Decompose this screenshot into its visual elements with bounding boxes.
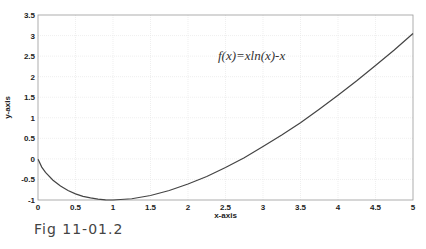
x-tick-label: 2 [186,203,191,212]
figure-caption: Fig 11-01.2 [34,221,123,237]
y-tick-label: 0.5 [24,134,36,143]
x-tick-label: 0.5 [70,203,82,212]
y-tick-label: 0 [31,155,36,164]
y-ticks: -1-0.500.511.522.533.5 [21,11,35,205]
y-tick-label: 3.5 [24,11,36,20]
y-tick-label: 2.5 [24,52,36,61]
line-chart: 00.511.522.533.544.55 -1-0.500.511.522.5… [0,0,426,249]
x-tick-label: 4.5 [370,203,382,212]
y-axis-label: y-axis [3,96,12,119]
function-annotation: f(x)=xln(x)-x [218,48,285,63]
x-tick-label: 3.5 [295,203,307,212]
y-tick-label: 1 [31,114,36,123]
y-tick-label: -1 [28,196,36,205]
grid [38,15,413,200]
x-tick-label: 5 [411,203,416,212]
x-tick-label: 3 [261,203,266,212]
x-tick-label: 0 [36,203,41,212]
y-tick-label: 1.5 [24,93,36,102]
y-tick-label: 3 [31,32,36,41]
x-tick-label: 1.5 [145,203,157,212]
y-tick-label: 2 [31,73,36,82]
x-axis-label: x-axis [214,211,237,220]
x-tick-label: 1 [111,203,116,212]
x-tick-label: 4 [336,203,341,212]
y-tick-label: -0.5 [21,175,35,184]
